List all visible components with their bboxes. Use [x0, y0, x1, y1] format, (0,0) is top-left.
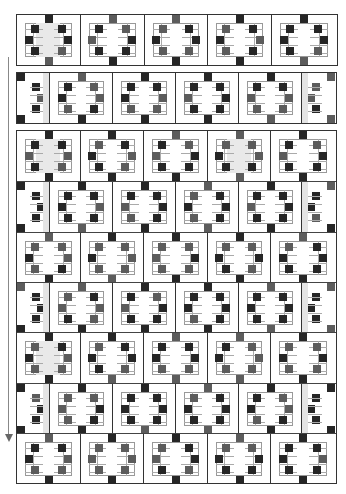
square — [249, 25, 257, 33]
quilt-half-block — [17, 73, 50, 123]
quilt-block — [81, 15, 145, 65]
square — [88, 152, 96, 160]
square — [247, 203, 255, 211]
square — [31, 25, 39, 33]
square — [108, 173, 116, 181]
quilt-block — [208, 15, 272, 65]
square — [222, 243, 230, 251]
square — [78, 384, 86, 392]
square — [64, 455, 72, 463]
quilt-half-block — [17, 283, 50, 333]
square — [172, 173, 180, 181]
square — [253, 214, 261, 222]
square — [248, 444, 256, 452]
square — [285, 365, 293, 373]
square — [215, 254, 223, 262]
square — [190, 214, 198, 222]
square — [159, 405, 167, 413]
square — [185, 163, 193, 171]
square — [153, 105, 161, 113]
square — [204, 73, 212, 81]
square — [236, 476, 244, 484]
quilt-row — [17, 131, 336, 181]
square — [185, 47, 193, 55]
square — [64, 36, 72, 44]
square — [299, 131, 307, 139]
square — [285, 304, 293, 312]
square — [236, 131, 244, 139]
square — [108, 476, 116, 484]
square — [45, 131, 53, 139]
square — [248, 243, 256, 251]
square — [299, 434, 307, 442]
square — [159, 203, 167, 211]
square — [204, 115, 212, 123]
square — [108, 131, 116, 139]
square — [17, 182, 25, 190]
square — [153, 416, 161, 424]
quilt-block — [50, 73, 113, 123]
quilt-block — [17, 15, 81, 65]
quilt-block — [239, 73, 302, 123]
square — [45, 15, 53, 23]
square — [256, 36, 264, 44]
square — [285, 343, 293, 351]
square — [58, 94, 66, 102]
quilt-block — [271, 233, 335, 283]
square — [153, 192, 161, 200]
square — [327, 115, 335, 123]
square — [96, 405, 104, 413]
square — [96, 304, 104, 312]
square — [121, 365, 129, 373]
divider — [307, 305, 322, 306]
edge-strip — [302, 283, 308, 333]
square — [31, 141, 39, 149]
square — [159, 94, 167, 102]
square — [279, 152, 287, 160]
square — [159, 25, 167, 33]
square — [253, 105, 261, 113]
quilt-row — [17, 383, 336, 434]
square — [58, 466, 66, 474]
square — [327, 182, 335, 190]
divider — [307, 422, 322, 423]
edge-strip — [302, 182, 308, 232]
square — [121, 304, 129, 312]
square — [190, 83, 198, 91]
square — [313, 141, 321, 149]
square — [58, 243, 66, 251]
square — [247, 304, 255, 312]
square — [327, 73, 335, 81]
square — [191, 354, 199, 362]
square — [255, 455, 263, 463]
square — [327, 283, 335, 291]
square — [204, 283, 212, 291]
edge-strip — [43, 182, 49, 232]
square — [90, 293, 98, 301]
square — [190, 394, 198, 402]
square — [190, 105, 198, 113]
square — [153, 293, 161, 301]
square — [141, 115, 149, 123]
square — [127, 83, 135, 91]
square — [204, 384, 212, 392]
square — [153, 83, 161, 91]
square — [313, 466, 321, 474]
square — [127, 293, 135, 301]
square — [152, 254, 160, 262]
square — [128, 455, 136, 463]
square — [216, 105, 224, 113]
square — [122, 47, 130, 55]
square — [190, 416, 198, 424]
square — [192, 36, 200, 44]
edge-strip — [302, 384, 308, 434]
square — [222, 141, 230, 149]
square — [45, 233, 53, 241]
quilt-block — [144, 333, 208, 383]
square — [31, 243, 39, 251]
square — [78, 115, 86, 123]
square — [172, 15, 180, 23]
square — [95, 243, 103, 251]
square — [185, 365, 193, 373]
square — [158, 243, 166, 251]
